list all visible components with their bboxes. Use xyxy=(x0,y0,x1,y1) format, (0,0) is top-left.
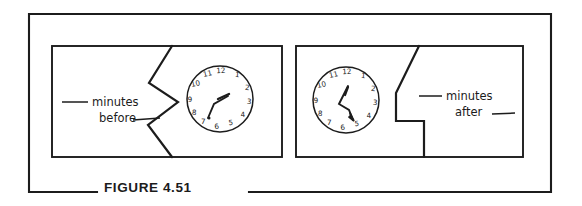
left-numeral-2: 2 xyxy=(245,83,250,92)
left-numeral-12: 12 xyxy=(216,66,226,76)
figure-illustration: minutes before 12 1 2 3 4 5 6 7 8 9 10 1… xyxy=(0,0,582,206)
right-blank-line-trailing xyxy=(492,113,515,114)
right-clock-face xyxy=(313,67,379,133)
left-numeral-9: 9 xyxy=(187,95,192,104)
left-numeral-7: 7 xyxy=(201,117,206,126)
left-numeral-11: 11 xyxy=(202,68,213,79)
left-clock-center-dot xyxy=(208,117,211,120)
right-numeral-11: 11 xyxy=(328,69,339,80)
left-numeral-3: 3 xyxy=(247,97,252,106)
left-label-minutes: minutes xyxy=(92,95,139,109)
left-label-before: before xyxy=(99,111,136,125)
right-numeral-7: 7 xyxy=(327,118,332,127)
right-label-after: after xyxy=(455,105,482,119)
figure-background xyxy=(0,0,582,206)
figure-caption: FIGURE 4.51 xyxy=(104,180,192,196)
right-numeral-9: 9 xyxy=(313,96,318,105)
right-numeral-12: 12 xyxy=(342,67,352,77)
right-clock: 12 1 2 3 4 5 6 7 8 9 10 11 xyxy=(313,67,379,133)
left-clock: 12 1 2 3 4 5 6 7 8 9 10 11 xyxy=(187,66,253,132)
right-numeral-3: 3 xyxy=(373,98,378,107)
right-numeral-5: 5 xyxy=(354,119,359,128)
figure-container: minutes before 12 1 2 3 4 5 6 7 8 9 10 1… xyxy=(0,0,582,206)
left-numeral-5: 5 xyxy=(228,118,233,127)
right-label-minutes: minutes xyxy=(446,89,493,103)
right-numeral-2: 2 xyxy=(371,84,376,93)
